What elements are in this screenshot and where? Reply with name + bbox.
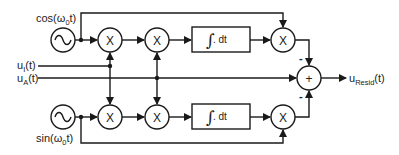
block-diagram: cos(ω0t) X X ∫ . dt [0,0,399,155]
summer-sign-top: - [299,52,303,64]
svg-text:X: X [106,34,114,48]
multiplier-1: X [98,28,122,52]
sin-oscillator-label: sin(ω0t) [36,132,73,147]
sin-oscillator [51,105,75,129]
output-label: uResid(t) [349,72,385,87]
svg-text:X: X [279,111,287,125]
cos-oscillator-label: cos(ω0t) [36,12,76,27]
svg-text:. dt: . dt [213,34,227,45]
svg-text:X: X [153,111,161,125]
summer-sign-bottom: - [299,90,303,102]
cos-oscillator [51,28,75,52]
cos-branch: cos(ω0t) X X ∫ . dt [36,12,309,65]
multiplier-3: X [271,28,295,52]
sin-branch: sin(ω0t) X X ∫ . dt X - [36,90,309,147]
svg-text:X: X [279,34,287,48]
multiplier-5: X [145,105,169,129]
inputs: uI(t) uA(t) [17,53,296,104]
integrator-2: ∫ . dt [192,104,250,129]
svg-text:X: X [106,111,114,125]
svg-text:X: X [153,34,161,48]
multiplier-4: X [98,105,122,129]
svg-text:+: + [305,72,312,86]
multiplier-6: X [271,105,295,129]
svg-text:. dt: . dt [213,111,227,122]
integrator-1: ∫ . dt [192,27,250,52]
summer: + [297,66,321,90]
input-ua-label: uA(t) [17,72,39,87]
multiplier-2: X [145,28,169,52]
